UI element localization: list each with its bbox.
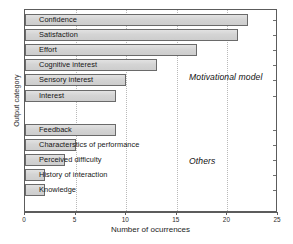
x-tick: [277, 212, 278, 215]
x-tick: [176, 212, 177, 215]
x-tick-label: 15: [172, 216, 179, 223]
x-tick-label: 20: [223, 216, 230, 223]
annotation-motivational-model: Motivational model: [189, 72, 262, 82]
y-axis-title: Output category: [12, 51, 21, 151]
annotations-layer: Motivational model Others: [25, 10, 276, 211]
x-axis-title: Number of ocurrences: [24, 225, 277, 234]
x-tick-label: 10: [122, 216, 129, 223]
x-tick: [226, 212, 227, 215]
annotation-others: Others: [189, 156, 215, 166]
x-tick: [75, 212, 76, 215]
x-tick: [125, 212, 126, 215]
plot-area: ConfidenceSatisfactionEffortCognitive in…: [24, 9, 277, 212]
x-tick-label: 25: [273, 216, 280, 223]
x-tick: [24, 212, 25, 215]
x-axis: 0510152025: [24, 212, 277, 213]
bar-chart-figure: Output category ConfidenceSatisfactionEf…: [0, 0, 293, 244]
x-tick-label: 5: [73, 216, 77, 223]
x-tick-label: 0: [22, 216, 26, 223]
